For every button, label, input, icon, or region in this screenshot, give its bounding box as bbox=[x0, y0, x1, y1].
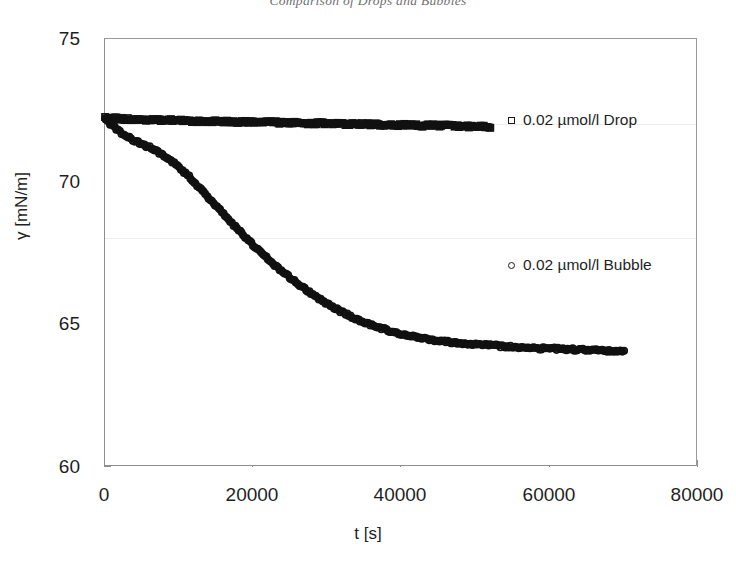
plot-area bbox=[104, 38, 697, 466]
chart-figure: Comparison of Drops and Bubbles 75 70 65… bbox=[0, 0, 736, 568]
series-drop bbox=[102, 114, 493, 131]
x-tick-label-40000: 40000 bbox=[350, 484, 450, 506]
legend-item-drop: 0.02 µmol/l Drop bbox=[508, 111, 637, 129]
series-bubble bbox=[102, 115, 627, 355]
y-tick-label-70: 70 bbox=[24, 171, 80, 193]
legend-label-bubble: 0.02 µmol/l Bubble bbox=[523, 256, 652, 274]
data-series-layer bbox=[105, 39, 698, 467]
y-tick-label-60: 60 bbox=[24, 456, 80, 478]
legend-marker-circle-icon bbox=[508, 262, 515, 269]
x-tick-label-20000: 20000 bbox=[202, 484, 302, 506]
y-axis-title: γ [mN/m] bbox=[12, 146, 32, 266]
x-axis-title: t [s] bbox=[0, 524, 736, 544]
y-tick-label-65: 65 bbox=[24, 313, 80, 335]
x-tick-label-80000: 80000 bbox=[647, 484, 736, 506]
x-tick-label-0: 0 bbox=[64, 484, 144, 506]
legend-marker-square-icon bbox=[508, 117, 515, 124]
y-tick-label-75: 75 bbox=[24, 28, 80, 50]
chart-title: Comparison of Drops and Bubbles bbox=[0, 0, 736, 9]
x-tick-label-60000: 60000 bbox=[499, 484, 599, 506]
legend-item-bubble: 0.02 µmol/l Bubble bbox=[508, 256, 652, 274]
legend-label-drop: 0.02 µmol/l Drop bbox=[523, 111, 637, 129]
